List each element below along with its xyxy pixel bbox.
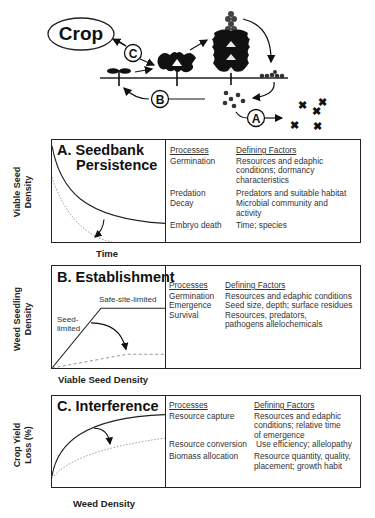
- panel-divider: [165, 266, 166, 368]
- marker-a-badge: A: [248, 110, 265, 127]
- y-label-line2: Loss (%): [23, 410, 34, 480]
- y-label-line1: Weed Seedling: [12, 284, 23, 354]
- process-cell: Decay: [170, 199, 240, 209]
- factors-header: Defining Factors: [225, 281, 351, 291]
- seed-rain-icon: [260, 70, 285, 78]
- table-header: Processes Defining Factors: [170, 146, 362, 156]
- crop-label: Crop: [58, 23, 104, 45]
- table-row: Resource capture Resources and edaphic c…: [169, 412, 375, 441]
- panel-a-title: A. Seedbank Persistence: [57, 143, 157, 173]
- factors-header: Defining Factors: [236, 146, 362, 156]
- weed-life-cycle-diagram: B A ✖ ✖ ✖ ✖ ✖ C: [0, 0, 375, 135]
- factor-cell: Resources, predators, pathogens alleloch…: [225, 311, 345, 330]
- factor-cell: Microbial community and activity: [236, 199, 336, 218]
- shift-arrow-icon: [95, 219, 104, 237]
- svg-text:✖: ✖: [298, 99, 307, 111]
- panel-a-x-axis-label: Time: [96, 248, 118, 259]
- factor-cell: Resource quantity, quality, placement; g…: [254, 452, 354, 471]
- title-line2: Persistence: [57, 158, 157, 173]
- table-row: Decay Microbial community and activity: [170, 199, 362, 218]
- annotation-line1: Seed-: [57, 315, 80, 324]
- table-header: Processes Defining Factors: [169, 401, 375, 411]
- process-cell: Embryo death: [170, 221, 240, 231]
- panel-b-y-axis-label: Weed Seedling Density: [12, 284, 34, 354]
- panel-c-x-axis-label: Weed Density: [73, 498, 135, 509]
- seed-loss-x-icons: ✖ ✖ ✖ ✖ ✖: [290, 96, 327, 132]
- processes-header: Processes: [169, 401, 239, 411]
- factor-cell: Resources and edaphic conditions; dorman…: [236, 157, 326, 186]
- y-label-line1: Crop Yield: [12, 410, 23, 480]
- table-row: Embryo death Time; species: [170, 221, 362, 231]
- safe-site-limited-label: Safe-site-limited: [99, 295, 156, 304]
- reduced-response-curve: [52, 354, 165, 368]
- seedling-icon: [107, 68, 131, 86]
- processes-header: Processes: [170, 146, 240, 156]
- panel-a-seedbank-persistence: A. Seedbank Persistence Processes Defini…: [51, 139, 361, 243]
- panel-b-x-axis-label: Viable Seed Density: [58, 374, 148, 385]
- factor-cell: Resources and edaphic conditions; relati…: [254, 412, 349, 441]
- seedbank-icon: [223, 91, 246, 109]
- table-row: Resource conversion Use efficiency; alle…: [169, 440, 375, 450]
- svg-text:✖: ✖: [313, 120, 322, 132]
- reduced-yield-loss-curve: [52, 438, 165, 478]
- y-label-line2: Density: [23, 157, 34, 227]
- yield-loss-curve: [52, 415, 165, 477]
- svg-text:✖: ✖: [290, 119, 299, 131]
- panel-b-process-table: Processes Defining Factors Germination R…: [169, 281, 360, 330]
- marker-b-badge: B: [152, 91, 169, 108]
- panel-c-y-axis-label: Crop Yield Loss (%): [12, 410, 34, 480]
- panel-c-interference: C. Interference Processes Defining Facto…: [51, 395, 361, 488]
- svg-text:✖: ✖: [312, 105, 321, 117]
- panel-b-establishment: B. Establishment Safe-site-limited Seed-…: [51, 265, 361, 369]
- seed-limited-label: Seed- limited: [57, 315, 80, 333]
- process-cell: Resource conversion: [169, 440, 254, 450]
- svg-text:C: C: [129, 47, 138, 61]
- svg-text:B: B: [156, 93, 165, 107]
- factor-cell: Time; species: [236, 221, 362, 231]
- process-cell: Biomass allocation: [169, 452, 254, 462]
- title-line1: A. Seedbank: [57, 143, 157, 158]
- svg-text:A: A: [252, 112, 261, 126]
- y-label-line1: Viable Seed: [12, 157, 23, 227]
- rosette-plant-icon: [158, 52, 197, 86]
- shift-arrow-icon: [91, 323, 126, 349]
- y-label-line2: Density: [23, 284, 34, 354]
- panel-c-process-table: Processes Defining Factors Resource capt…: [169, 401, 375, 471]
- factors-header: Defining Factors: [254, 401, 375, 411]
- panel-divider: [165, 396, 166, 487]
- factor-cell: Use efficiency; allelopathy: [256, 440, 366, 450]
- process-cell: Germination: [170, 157, 240, 167]
- enhanced-decay-curve: [52, 177, 112, 242]
- table-row: Survival Resources, predators, pathogens…: [169, 311, 360, 330]
- table-row: Germination Resources and edaphic condit…: [170, 157, 362, 186]
- panel-divider: [165, 140, 166, 242]
- annotation-line2: limited: [57, 324, 80, 333]
- table-row: Biomass allocation Resource quantity, qu…: [169, 452, 375, 471]
- table-header: Processes Defining Factors: [169, 281, 360, 291]
- panel-b-title: B. Establishment: [57, 270, 175, 285]
- panel-a-process-table: Processes Defining Factors Germination R…: [170, 146, 362, 231]
- marker-c-badge: C: [125, 45, 142, 62]
- panel-a-y-axis-label: Viable Seed Density: [12, 157, 34, 227]
- process-cell: Resource capture: [169, 412, 254, 422]
- mature-plant-icon: [212, 11, 250, 85]
- panel-c-title: C. Interference: [57, 399, 159, 414]
- shift-arrow-icon: [94, 428, 110, 444]
